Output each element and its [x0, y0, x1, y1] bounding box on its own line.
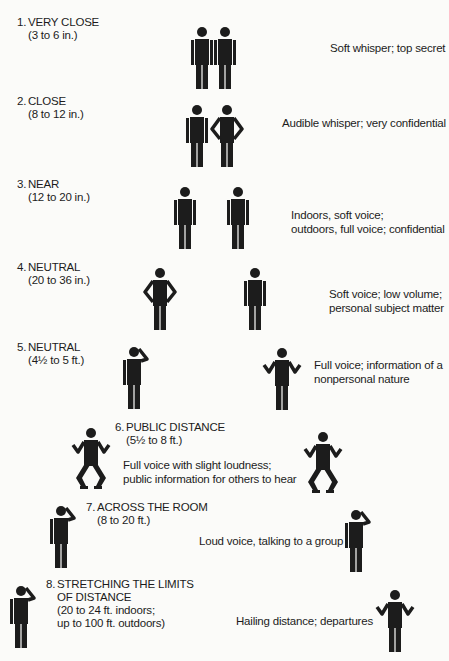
figure-hand-to-head-icon [342, 510, 376, 574]
distance-description-5: Full voice; information of a nonpersonal… [314, 358, 443, 386]
distance-name: VERY CLOSE [28, 16, 99, 28]
leg-gap [196, 143, 197, 167]
figure-hand-to-head-icon [47, 506, 81, 570]
item-number: 4. [17, 261, 28, 274]
distance-range: (8 to 20 ft.) [86, 514, 208, 527]
figure-shrugging-icon [373, 590, 417, 654]
head [233, 187, 243, 197]
figure-standing-icon [240, 268, 270, 332]
torso [218, 39, 232, 65]
torso [316, 444, 330, 470]
distance-description-4: Soft voice; low volume; personal subject… [329, 287, 444, 315]
leg-gap [60, 544, 61, 568]
torso [190, 117, 204, 143]
description-line: Full voice; information of a [314, 358, 443, 372]
item-number: 7. [86, 501, 97, 514]
torso [349, 522, 363, 548]
distance-description-2: Audible whisper; very confidential [282, 116, 446, 130]
arm [193, 200, 196, 225]
distance-description-8: Hailing distance; departures [236, 614, 373, 628]
leg-gap [184, 225, 185, 249]
torso [248, 280, 262, 306]
arm [212, 118, 220, 139]
head [390, 590, 400, 600]
distance-name: ACROSS THE ROOM [97, 501, 208, 513]
arm [402, 604, 413, 614]
leg-gap [355, 548, 356, 572]
arm [174, 200, 177, 225]
figure-standing-icon [182, 105, 212, 169]
head [250, 268, 260, 278]
description-line: public information for others to hear [123, 472, 297, 486]
distance-range: (5½ to 8 ft.) [115, 434, 225, 447]
leg-gap [254, 306, 255, 330]
leg-gap [226, 143, 227, 167]
arm [305, 446, 316, 456]
torso [153, 280, 167, 306]
head [318, 432, 328, 442]
foot [94, 486, 102, 489]
leg-gap [394, 628, 395, 652]
arm [264, 362, 275, 372]
description-line: Soft whisper; top secret [330, 41, 445, 55]
figure-standing-icon [170, 187, 200, 251]
arm [205, 118, 208, 143]
figure-standing-icon [223, 187, 253, 251]
description-line: personal subject matter [329, 301, 444, 315]
torso [127, 359, 141, 385]
figure-shrugging-icon [260, 348, 304, 412]
arm [50, 519, 53, 544]
head [129, 347, 139, 357]
arm [233, 40, 236, 65]
item-number: 3. [17, 178, 28, 191]
distance-name: PUBLIC DISTANCE [126, 421, 225, 433]
distance-label-5: 5.NEUTRAL (4½ to 5 ft.) [17, 341, 84, 367]
leg [324, 469, 338, 492]
foot [312, 490, 320, 493]
description-line: outdoors, full voice; confidential [291, 222, 445, 236]
distance-name: NEUTRAL [28, 261, 80, 273]
head [86, 428, 96, 438]
arm [10, 599, 13, 624]
head [192, 105, 202, 115]
leg [76, 465, 90, 488]
description-line: Hailing distance; departures [236, 614, 373, 628]
arm [186, 118, 189, 143]
distance-name: NEUTRAL [28, 341, 80, 353]
description-line: nonpersonal nature [314, 372, 443, 386]
arm [98, 442, 109, 452]
leg-gap [281, 386, 282, 410]
distance-name: NEAR [28, 178, 59, 190]
torso [195, 39, 209, 65]
item-number: 1. [17, 16, 28, 29]
figure-hand-to-head-icon [7, 586, 41, 650]
arm [234, 118, 242, 139]
leg-gap [224, 65, 225, 89]
distance-label-3: 3.NEAR (12 to 20 in.) [17, 178, 90, 204]
arm [345, 523, 348, 548]
arm [123, 360, 126, 385]
foot [80, 486, 88, 489]
head [16, 586, 26, 596]
distance-range: up to 100 ft. outdoors) [46, 617, 194, 630]
distance-name: STRETCHING THE LIMITS [57, 578, 194, 590]
distance-range: (8 to 12 in.) [17, 108, 84, 121]
torso [14, 598, 28, 624]
arm [289, 362, 300, 372]
head [56, 506, 66, 516]
figure-hand-to-head-icon [120, 347, 154, 411]
arm [330, 446, 341, 456]
arm [263, 281, 266, 306]
torso [220, 117, 234, 143]
distance-range: (20 to 24 ft. indoors; [46, 604, 194, 617]
figure-crouching-shrug-icon [69, 428, 113, 492]
leg [92, 465, 106, 488]
figure-hands-on-hips-icon [143, 268, 177, 332]
leg-gap [20, 624, 21, 648]
leg-gap [133, 385, 134, 409]
distance-name-line2: OF DISTANCE [46, 591, 194, 604]
torso [231, 199, 245, 225]
figure-standing-icon [210, 27, 240, 91]
arm [73, 442, 84, 452]
figure-hands-on-hips-icon [210, 105, 244, 169]
